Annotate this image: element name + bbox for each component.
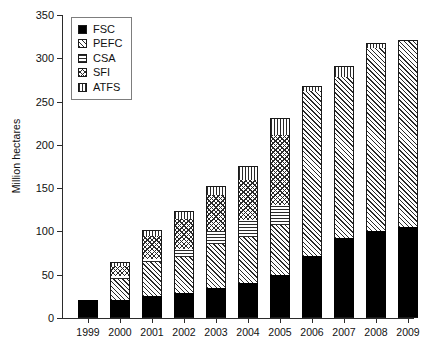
y-tick <box>57 58 62 59</box>
x-tick <box>120 318 121 323</box>
bar-segment-atfs[interactable] <box>366 43 386 47</box>
bar-segment-csa[interactable] <box>238 219 258 236</box>
bar-segment-fsc[interactable] <box>78 300 98 318</box>
x-axis-line <box>62 318 414 319</box>
x-tick <box>184 318 185 323</box>
bar-segment-fsc[interactable] <box>206 287 226 318</box>
y-axis-title: Million hectares <box>10 96 22 216</box>
bar-segment-sfi[interactable] <box>174 218 194 248</box>
legend-swatch-sfi-icon <box>78 68 87 77</box>
x-tick-label: 2004 <box>236 327 259 338</box>
bar-segment-atfs[interactable] <box>238 166 258 180</box>
legend-swatch-csa-icon <box>78 54 87 63</box>
bar-segment-fsc[interactable] <box>398 226 418 318</box>
bar-2002[interactable] <box>174 212 194 318</box>
y-tick <box>57 318 62 319</box>
y-tick <box>57 145 62 146</box>
y-tick <box>57 275 62 276</box>
bar-segment-pefc[interactable] <box>398 40 418 227</box>
chart-legend: FSCPEFCCSASFIATFS <box>71 17 132 100</box>
x-tick <box>312 318 313 323</box>
bar-1999[interactable] <box>78 301 98 318</box>
legend-item-csa[interactable]: CSA <box>78 51 122 66</box>
bar-segment-atfs[interactable] <box>174 211 194 219</box>
x-tick-label: 2009 <box>396 327 419 338</box>
x-tick-label: 2000 <box>108 327 131 338</box>
x-tick-label: 2006 <box>300 327 323 338</box>
bar-segment-atfs[interactable] <box>302 86 322 91</box>
bar-segment-pefc[interactable] <box>270 224 290 275</box>
legend-item-atfs[interactable]: ATFS <box>78 80 122 95</box>
bar-segment-atfs[interactable] <box>334 66 354 77</box>
bar-segment-sfi[interactable] <box>142 235 162 259</box>
bar-segment-fsc[interactable] <box>366 230 386 318</box>
bar-segment-fsc[interactable] <box>142 295 162 318</box>
bar-2000[interactable] <box>110 263 130 318</box>
bar-segment-fsc[interactable] <box>174 292 194 318</box>
x-tick <box>376 318 377 323</box>
bar-segment-pefc[interactable] <box>238 236 258 283</box>
bar-segment-csa[interactable] <box>206 230 226 244</box>
x-tick-label: 2003 <box>204 327 227 338</box>
bar-segment-sfi[interactable] <box>270 134 290 205</box>
legend-item-sfi[interactable]: SFI <box>78 66 122 81</box>
x-tick <box>280 318 281 323</box>
legend-label: CSA <box>93 53 116 64</box>
x-tick <box>248 318 249 323</box>
stacked-bar-chart: Million hectares 050100150200250300350 1… <box>0 0 429 361</box>
bar-segment-sfi[interactable] <box>110 265 130 276</box>
bar-segment-atfs[interactable] <box>206 186 226 195</box>
y-axis-line <box>62 15 63 319</box>
bar-2001[interactable] <box>142 231 162 318</box>
bar-segment-fsc[interactable] <box>302 255 322 318</box>
bar-2006[interactable] <box>302 87 322 318</box>
bar-2004[interactable] <box>238 167 258 319</box>
y-tick <box>57 188 62 189</box>
y-tick-label: 50 <box>42 269 54 280</box>
y-tick-label: 150 <box>36 183 54 194</box>
y-tick <box>57 102 62 103</box>
legend-label: ATFS <box>93 82 120 93</box>
y-tick-label: 0 <box>48 313 54 324</box>
bar-segment-pefc[interactable] <box>142 261 162 297</box>
legend-label: SFI <box>93 67 110 78</box>
bar-segment-sfi[interactable] <box>206 194 226 230</box>
y-tick-label: 300 <box>36 53 54 64</box>
x-tick <box>88 318 89 323</box>
bar-2003[interactable] <box>206 187 226 318</box>
bar-segment-pefc[interactable] <box>302 90 322 255</box>
x-tick-label: 2008 <box>364 327 387 338</box>
x-tick-label: 2007 <box>332 327 355 338</box>
bar-segment-fsc[interactable] <box>238 282 258 318</box>
bar-segment-atfs[interactable] <box>110 262 130 266</box>
x-tick-label: 2001 <box>140 327 163 338</box>
bar-segment-fsc[interactable] <box>110 299 130 318</box>
y-tick <box>57 231 62 232</box>
bar-segment-pefc[interactable] <box>206 243 226 288</box>
bar-2009[interactable] <box>398 41 418 318</box>
bar-segment-pefc[interactable] <box>110 278 130 300</box>
bar-segment-fsc[interactable] <box>334 237 354 318</box>
bar-segment-csa[interactable] <box>270 204 290 224</box>
legend-item-pefc[interactable]: PEFC <box>78 37 122 52</box>
y-tick-label: 350 <box>36 10 54 21</box>
legend-swatch-pefc-icon <box>78 39 87 48</box>
bar-segment-pefc[interactable] <box>366 47 386 232</box>
bar-2008[interactable] <box>366 44 386 318</box>
bar-segment-sfi[interactable] <box>238 179 258 221</box>
y-tick-label: 200 <box>36 139 54 150</box>
bar-segment-fsc[interactable] <box>270 274 290 318</box>
legend-item-fsc[interactable]: FSC <box>78 22 122 37</box>
legend-label: FSC <box>93 24 115 35</box>
x-tick-label: 2002 <box>172 327 195 338</box>
y-tick <box>57 15 62 16</box>
bar-segment-pefc[interactable] <box>334 76 354 238</box>
bar-2005[interactable] <box>270 119 290 318</box>
bar-2007[interactable] <box>334 67 354 318</box>
bar-segment-csa[interactable] <box>174 248 194 257</box>
bar-segment-pefc[interactable] <box>174 256 194 293</box>
legend-label: PEFC <box>93 38 122 49</box>
x-tick-label: 1999 <box>76 327 99 338</box>
bar-segment-atfs[interactable] <box>142 230 162 236</box>
bar-segment-atfs[interactable] <box>270 118 290 135</box>
